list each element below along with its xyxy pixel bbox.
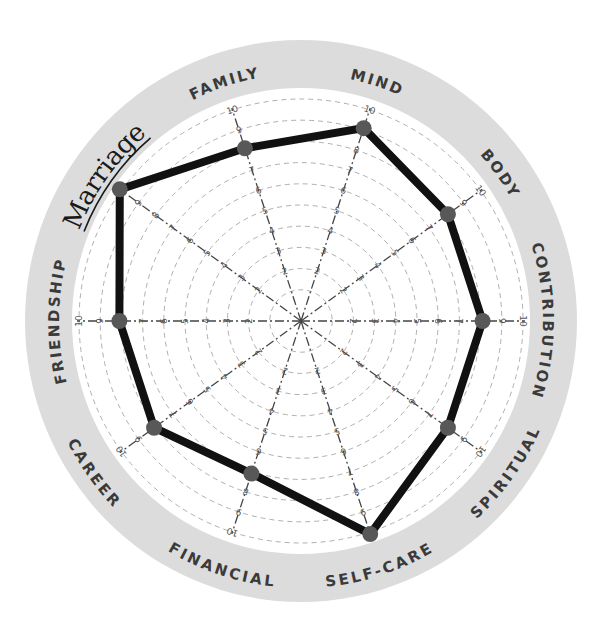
score-dot-family xyxy=(237,140,253,156)
score-dot-financial xyxy=(243,466,259,482)
tick-label: 2 xyxy=(348,318,358,324)
tick-label: 9 xyxy=(497,318,507,324)
score-dot-contribution xyxy=(475,313,491,329)
tick-label: 2 xyxy=(244,318,254,324)
tick-label: 3 xyxy=(370,318,380,324)
tick-label: 10 xyxy=(74,315,84,327)
tick-label: 7 xyxy=(454,318,464,324)
tick-label: 3 xyxy=(222,318,232,324)
tick-label: 6 xyxy=(159,318,169,324)
tick-label: 4 xyxy=(391,318,401,324)
tick-label: 5 xyxy=(180,318,190,324)
score-dot-friendship xyxy=(111,313,127,329)
tick-label: 6 xyxy=(433,318,443,324)
tick-label: 4 xyxy=(201,318,211,324)
tick-label: 10 xyxy=(518,315,528,327)
life-wheel-chart: 2345678910234567891023456789102345678910… xyxy=(0,0,597,628)
score-dot-marriage xyxy=(112,181,128,197)
tick-label: 5 xyxy=(412,318,422,324)
score-dot-career xyxy=(146,420,162,436)
tick-label: 9 xyxy=(95,318,105,324)
tick-label: 7 xyxy=(138,318,148,324)
score-dot-body xyxy=(440,206,456,222)
score-dot-mind xyxy=(356,120,372,136)
score-dot-spiritual xyxy=(440,420,456,436)
score-dot-self-care xyxy=(362,526,378,542)
